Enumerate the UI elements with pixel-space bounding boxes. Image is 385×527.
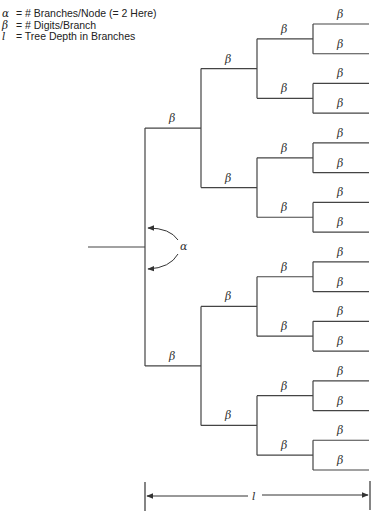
beta-label: β <box>280 142 287 155</box>
tree-lines <box>88 24 369 470</box>
beta-label: β <box>280 82 287 95</box>
beta-label: β <box>280 439 287 452</box>
beta-label: β <box>168 112 175 125</box>
beta-label: β <box>224 290 231 303</box>
beta-label: β <box>336 454 343 467</box>
beta-label: β <box>336 246 343 259</box>
alpha-annotation: α <box>148 228 188 269</box>
tree-diagram: ββββββββββββββββββββββββββββββ α l <box>0 0 385 527</box>
beta-label: β <box>168 350 175 363</box>
alpha-label: α <box>180 240 188 253</box>
beta-label: β <box>280 261 287 274</box>
beta-label: β <box>336 157 343 170</box>
beta-label: β <box>336 305 343 318</box>
beta-label: β <box>280 380 287 393</box>
beta-label: β <box>336 8 343 21</box>
beta-label: β <box>336 335 343 348</box>
beta-label: β <box>336 97 343 110</box>
tree-labels: ββββββββββββββββββββββββββββββ <box>168 8 343 467</box>
beta-label: β <box>336 365 343 378</box>
beta-label: β <box>280 23 287 36</box>
depth-dimension: l <box>145 481 370 511</box>
beta-label: β <box>336 424 343 437</box>
beta-label: β <box>336 67 343 80</box>
beta-label: β <box>336 216 343 229</box>
beta-label: β <box>336 186 343 199</box>
beta-label: β <box>336 127 343 140</box>
beta-label: β <box>224 172 231 185</box>
beta-label: β <box>280 320 287 333</box>
beta-label: β <box>336 395 343 408</box>
beta-label: β <box>224 409 231 422</box>
beta-label: β <box>336 38 343 51</box>
beta-label: β <box>280 201 287 214</box>
beta-label: β <box>224 53 231 66</box>
depth-label: l <box>252 490 256 503</box>
beta-label: β <box>336 276 343 289</box>
